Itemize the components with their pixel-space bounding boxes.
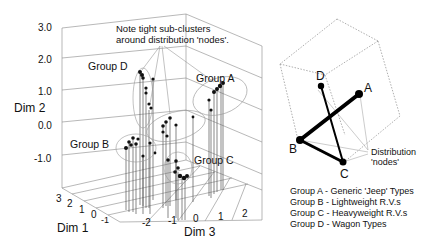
z-tick-neg1: -1 — [168, 215, 177, 226]
plot3d-grid — [62, 14, 262, 222]
legend-item-a: Group A - Generic 'Jeep' Types — [290, 186, 414, 196]
legend-item-c: Group C - Heavyweight R.V.s — [290, 208, 408, 218]
node-b-label: B — [289, 142, 297, 156]
axis-title-dim1: Dim 1 — [57, 221, 89, 235]
legend-item-b: Group B - Lightweight R.V.s — [290, 197, 401, 207]
x-tick-neg1: -1 — [101, 215, 109, 225]
z-tick-neg2: -2 — [142, 217, 151, 228]
annotation-line-1: Note tight sub-clusters — [116, 23, 211, 34]
node-c-label: C — [340, 167, 349, 181]
data-stems — [126, 72, 223, 220]
figure: 3.0 2.0 1.0 0.0 -1.0 3 2 1 0 -1 -2 -1 0 … — [0, 0, 424, 252]
y-tick-2: 2.0 — [38, 54, 52, 65]
z-tick-0: 0 — [193, 213, 199, 224]
schematic-nodes — [296, 83, 363, 166]
schematic-callout-lines — [300, 90, 368, 162]
y-tick-0: 0.0 — [38, 120, 52, 131]
y-tick-3: 3.0 — [38, 22, 52, 33]
group-b-label: Group B — [70, 138, 109, 150]
callout-line-2: 'nodes' — [371, 157, 399, 167]
node-a-label: A — [364, 81, 372, 95]
x-tick-3: 3 — [56, 193, 62, 204]
group-a-label: Group A — [196, 72, 235, 84]
y-tick-1: 1.0 — [38, 86, 52, 97]
node-d-label: D — [316, 69, 325, 83]
axis-title-dim3: Dim 3 — [184, 225, 216, 239]
x-tick-0: 0 — [91, 209, 97, 220]
y-tick-neg1: -1.0 — [34, 153, 52, 164]
legend-item-d: Group D - Wagon Types — [290, 219, 387, 229]
annotation-line-2: around distribution 'nodes'. — [116, 34, 229, 45]
schematic-edges — [300, 86, 359, 162]
group-d-label: Group D — [88, 60, 128, 72]
x-tick-2: 2 — [67, 198, 73, 209]
callout-line-1: Distribution — [371, 147, 416, 157]
group-c-label: Group C — [194, 154, 234, 166]
x-tick-1: 1 — [79, 204, 85, 215]
axis-title-dim2: Dim 2 — [14, 101, 46, 115]
z-tick-2: 2 — [242, 208, 248, 219]
z-tick-1: 1 — [218, 211, 224, 222]
